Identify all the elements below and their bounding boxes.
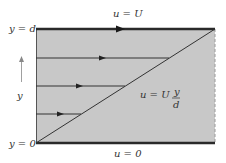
profile-numerator: y (173, 86, 180, 97)
top-y-label: y = d (8, 23, 36, 34)
profile-lhs: u = U (140, 89, 170, 100)
bottom-wall-label: u = 0 (114, 148, 142, 159)
y-axis-label: y (16, 90, 23, 101)
couette-flow-diagram: u = U y = d y y = 0 u = 0 u = U y d (0, 0, 226, 163)
profile-denominator: d (173, 99, 179, 110)
y-axis-arrowhead-icon (19, 56, 24, 62)
bottom-y-label: y = 0 (8, 138, 36, 149)
top-wall-label: u = U (113, 8, 143, 19)
